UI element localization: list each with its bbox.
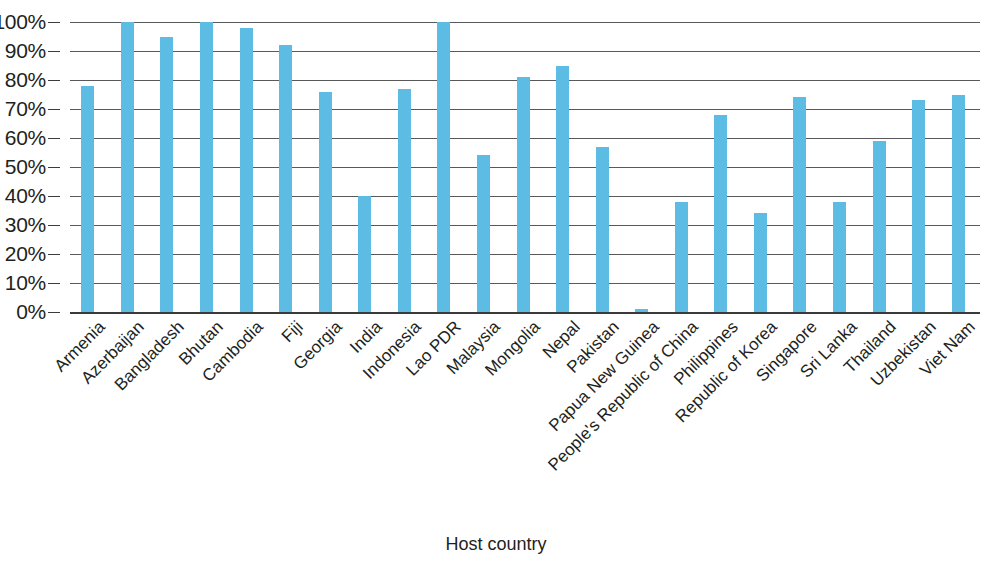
- bar: [437, 22, 450, 312]
- bar: [793, 97, 806, 312]
- bar: [279, 45, 292, 312]
- y-axis: 0%10%20%30%40%50%60%70%80%90%100%: [0, 0, 60, 312]
- y-tick-label: 40%: [5, 184, 46, 208]
- y-tick-mark: [48, 312, 60, 313]
- bars-layer: [70, 22, 980, 312]
- bar: [398, 89, 411, 312]
- y-tick-mark: [48, 109, 60, 110]
- bar: [833, 202, 846, 312]
- bar: [81, 86, 94, 312]
- bar: [675, 202, 688, 312]
- y-tick-mark: [48, 138, 60, 139]
- y-tick-label: 0%: [16, 300, 46, 324]
- y-tick-label: 60%: [5, 126, 46, 150]
- y-tick-mark: [48, 196, 60, 197]
- bar-chart: 0%10%20%30%40%50%60%70%80%90%100% Armeni…: [0, 0, 992, 572]
- bar: [358, 196, 371, 312]
- bar: [754, 213, 767, 312]
- bar: [477, 155, 490, 312]
- y-tick-label: 100%: [0, 10, 46, 34]
- bar: [714, 115, 727, 312]
- bar: [556, 66, 569, 313]
- bar: [873, 141, 886, 312]
- bar: [240, 28, 253, 312]
- y-tick-mark: [48, 225, 60, 226]
- bar: [160, 37, 173, 313]
- y-tick-mark: [48, 254, 60, 255]
- bar: [596, 147, 609, 312]
- y-tick-label: 80%: [5, 68, 46, 92]
- bar: [912, 100, 925, 312]
- bar: [517, 77, 530, 312]
- y-tick-label: 10%: [5, 271, 46, 295]
- x-axis-category-labels: ArmeniaAzerbaijanBangladeshBhutanCambodi…: [70, 312, 980, 512]
- x-axis-title: Host country: [0, 534, 992, 555]
- y-tick-label: 20%: [5, 242, 46, 266]
- y-tick-label: 50%: [5, 155, 46, 179]
- y-tick-mark: [48, 283, 60, 284]
- y-tick-label: 90%: [5, 39, 46, 63]
- y-tick-mark: [48, 51, 60, 52]
- y-tick-mark: [48, 22, 60, 23]
- y-tick-mark: [48, 80, 60, 81]
- bar: [200, 22, 213, 312]
- plot-area: [70, 22, 980, 312]
- y-tick-label: 30%: [5, 213, 46, 237]
- bar: [121, 22, 134, 312]
- y-tick-label: 70%: [5, 97, 46, 121]
- bar: [319, 92, 332, 312]
- bar: [952, 95, 965, 313]
- y-tick-mark: [48, 167, 60, 168]
